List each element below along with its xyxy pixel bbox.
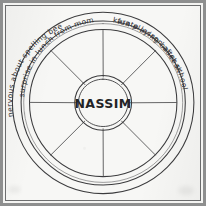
spoke-6 xyxy=(51,121,85,155)
hub: NASSIM xyxy=(74,75,131,130)
wheel-diagram: NASSIM nervous about spelling bee fun pl… xyxy=(5,5,201,201)
spoke-8 xyxy=(51,51,85,85)
spoke-4 xyxy=(122,121,156,155)
hub-label: NASSIM xyxy=(74,96,131,111)
drawing-canvas: NASSIM nervous about spelling bee fun pl… xyxy=(0,0,206,206)
spoke-2 xyxy=(122,51,156,85)
